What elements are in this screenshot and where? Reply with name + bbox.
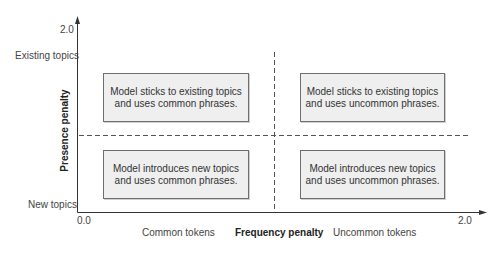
quadrant-top-left-line2: and uses common phrases. xyxy=(110,98,242,110)
quadrant-bottom-right: Model introduces new topics and uses unc… xyxy=(300,150,445,199)
quadrant-bottom-right-line1: Model introduces new topics xyxy=(306,163,440,175)
x-right-category: Uncommon tokens xyxy=(333,227,416,238)
quadrant-bottom-right-line2: and uses uncommon phrases. xyxy=(306,175,440,187)
quadrant-top-right-line1: Model sticks to existing topics xyxy=(306,86,440,98)
x-axis-title: Frequency penalty xyxy=(235,227,323,238)
quadrant-bottom-left-line1: Model introduces new topics xyxy=(113,163,239,175)
x-max-tick: 2.0 xyxy=(458,215,472,226)
quadrant-top-left-line1: Model sticks to existing topics xyxy=(110,86,242,98)
x-origin-tick: 0.0 xyxy=(77,215,91,226)
axes-and-dividers xyxy=(0,0,502,254)
y-axis-arrow-icon xyxy=(75,16,80,24)
x-left-category: Common tokens xyxy=(142,227,215,238)
quadrant-bottom-left-line2: and uses common phrases. xyxy=(113,175,239,187)
quadrant-top-left: Model sticks to existing topics and uses… xyxy=(103,73,249,122)
quadrant-top-right-line2: and uses uncommon phrases. xyxy=(306,98,440,110)
y-axis-title: Presence penalty xyxy=(59,81,70,181)
x-axis-arrow-icon xyxy=(479,210,487,215)
y-max-tick: 2.0 xyxy=(60,24,74,35)
quadrant-top-right: Model sticks to existing topics and uses… xyxy=(300,73,445,122)
y-top-category: Existing topics xyxy=(15,50,79,61)
quadrant-bottom-left: Model introduces new topics and uses com… xyxy=(103,150,249,199)
y-bottom-category: New topics xyxy=(28,199,77,210)
